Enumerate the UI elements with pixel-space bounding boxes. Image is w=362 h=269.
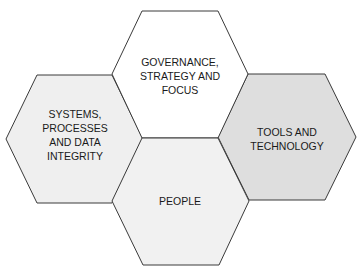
hexagon-systems-label-line-1: SYSTEMS,	[48, 108, 101, 120]
hexagon-tools-label-line-1: TOOLS AND	[257, 126, 317, 138]
hexagon-systems-label-line-4: INTEGRITY	[47, 150, 103, 162]
hexagon-systems-label-line-3: AND DATA	[49, 136, 101, 148]
hexagon-people-label-line-1: PEOPLE	[159, 195, 201, 207]
hexagon-governance-label-line-3: FOCUS	[162, 84, 199, 96]
hexagon-governance-label-line-2: STRATEGY AND	[140, 70, 221, 82]
hexagon-diagram: SYSTEMS, PROCESSES AND DATA INTEGRITY TO…	[0, 0, 362, 269]
hexagon-systems-label-line-2: PROCESSES	[42, 122, 107, 134]
hexagon-governance-label-line-1: GOVERNANCE,	[141, 56, 219, 68]
hexagon-tools-label-line-2: TECHNOLOGY	[250, 140, 324, 152]
